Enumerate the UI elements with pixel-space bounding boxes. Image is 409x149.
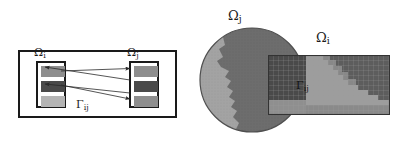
right-geometry-panel: Ωj Ωi bbox=[195, 0, 409, 149]
label-omega-j-right: Ωj bbox=[228, 8, 242, 24]
bar-j-2 bbox=[134, 81, 158, 92]
subdomain-j-container bbox=[129, 61, 159, 108]
label-omega-j-left: Ωj bbox=[127, 47, 139, 60]
label-omega-i-right: Ωi bbox=[316, 30, 330, 46]
label-gamma-ij-left: Γij bbox=[76, 99, 89, 112]
label-omega-i-left: Ωi bbox=[34, 47, 46, 60]
rectangular-subdomain-omega-i bbox=[268, 55, 390, 115]
bar-j-1 bbox=[134, 66, 158, 77]
bar-i-2 bbox=[41, 81, 65, 92]
bar-i-3 bbox=[41, 96, 65, 107]
left-block-diagram-panel: Ωi Ωj Γij bbox=[0, 0, 195, 149]
bar-i-1 bbox=[41, 66, 65, 77]
domain-decomposition-figure: Ωi Ωj Γij bbox=[0, 0, 409, 149]
subdomain-i-container bbox=[36, 61, 66, 108]
label-gamma-ij-right: Γij bbox=[296, 79, 309, 93]
bar-j-3 bbox=[134, 96, 158, 107]
